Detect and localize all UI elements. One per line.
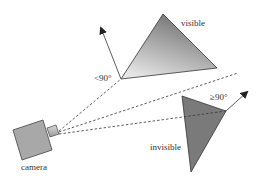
invisible-label: invisible	[150, 143, 181, 152]
angle-at-least-90-label: ≥90°	[210, 93, 228, 102]
camera-label: camera	[21, 163, 47, 172]
camera-icon	[13, 120, 59, 160]
angle-less-than-90-label: <90°	[94, 74, 112, 83]
visible-normal-arrow	[101, 28, 121, 79]
invisible-normal-arrow	[226, 92, 247, 111]
visibility-diagram: visible <90° ≥90° invisible camera	[0, 0, 258, 181]
invisible-triangle	[182, 96, 226, 172]
visible-label: visible	[181, 19, 205, 28]
